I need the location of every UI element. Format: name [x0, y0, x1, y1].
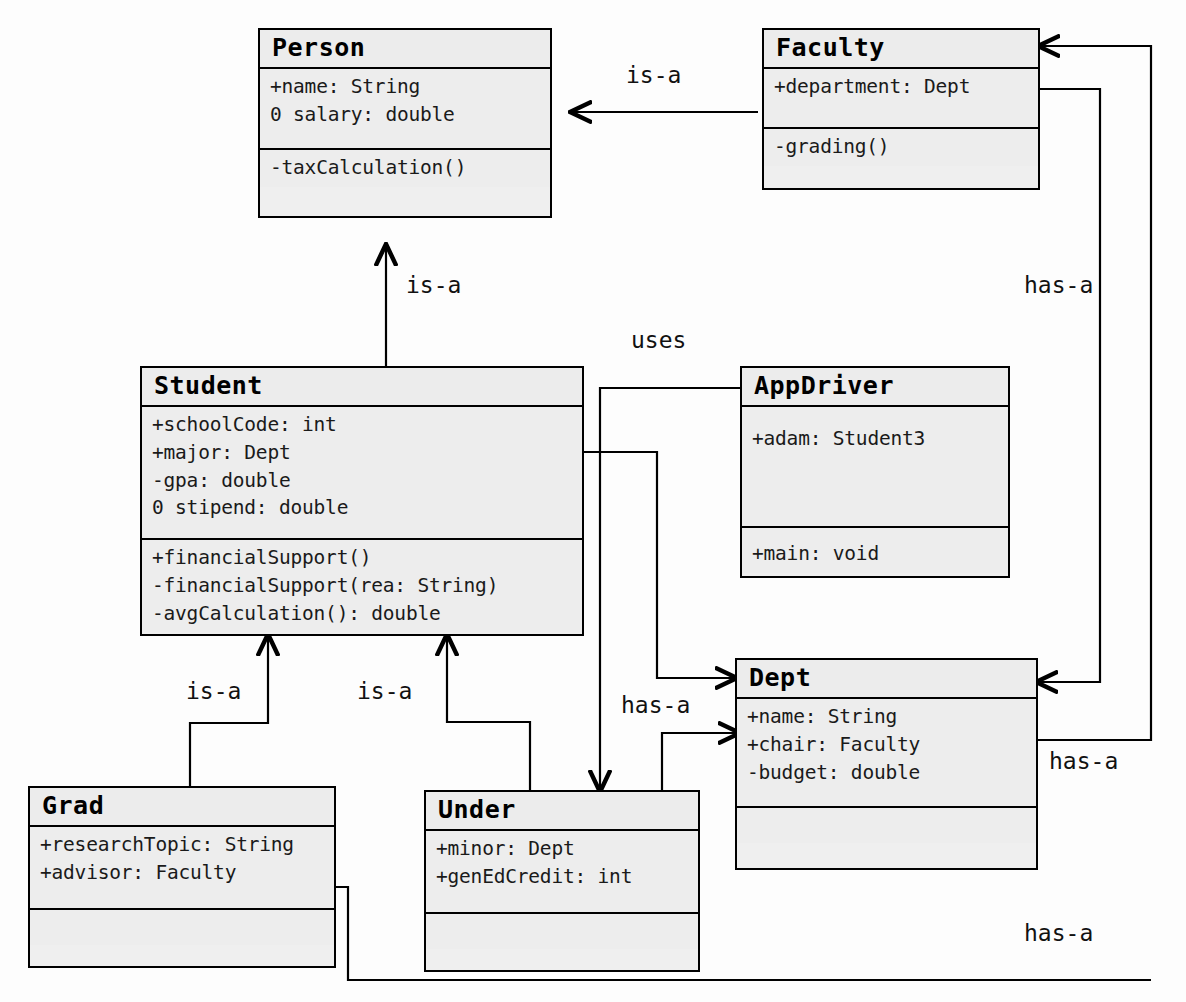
class-operations-grad	[30, 910, 334, 945]
operation-row: -grading()	[774, 133, 1028, 161]
class-name-under: Under	[426, 792, 698, 831]
class-name-faculty: Faculty	[764, 30, 1038, 69]
class-attributes-dept: +name: String +chair: Faculty -budget: d…	[737, 699, 1036, 808]
attribute-row: +department: Dept	[774, 73, 1028, 101]
attribute-row: +genEdCredit: int	[436, 863, 688, 891]
attribute-row: +minor: Dept	[436, 835, 688, 863]
edge-label-appdriver-under: uses	[631, 327, 686, 353]
attribute-row: +researchTopic: String	[40, 831, 324, 859]
operation-row: -avgCalculation(): double	[152, 600, 572, 628]
operation-row: +financialSupport()	[152, 544, 572, 572]
edge-under-student	[447, 636, 530, 812]
edge-grad-student	[190, 636, 268, 806]
edge-label-faculty-person: is-a	[626, 62, 681, 88]
class-box-person[interactable]: Person +name: String 0 salary: double -t…	[258, 28, 552, 218]
class-operations-faculty: -grading()	[764, 129, 1038, 166]
class-attributes-faculty: +department: Dept	[764, 69, 1038, 129]
class-box-student[interactable]: Student +schoolCode: int +major: Dept -g…	[140, 366, 584, 636]
attribute-row: -budget: double	[747, 759, 1026, 787]
attribute-row: +name: String	[747, 703, 1026, 731]
edge-label-faculty-dept: has-a	[1024, 272, 1093, 298]
attribute-row: +major: Dept	[152, 439, 572, 467]
class-operations-person: -taxCalculation()	[260, 150, 550, 187]
attribute-row: +schoolCode: int	[152, 411, 572, 439]
edge-label-grad-faculty: has-a	[1024, 920, 1093, 946]
class-name-grad: Grad	[30, 788, 334, 827]
class-attributes-person: +name: String 0 salary: double	[260, 69, 550, 150]
class-name-dept: Dept	[737, 660, 1036, 699]
attribute-row: +chair: Faculty	[747, 731, 1026, 759]
edge-label-grad-student: is-a	[186, 678, 241, 704]
class-operations-dept	[737, 808, 1036, 843]
class-attributes-student: +schoolCode: int +major: Dept -gpa: doub…	[142, 407, 582, 540]
operation-row: -taxCalculation()	[270, 154, 540, 182]
class-operations-student: +financialSupport() -financialSupport(re…	[142, 540, 582, 632]
class-name-person: Person	[260, 30, 550, 69]
class-operations-under	[426, 914, 698, 949]
operation-row: -financialSupport(rea: String)	[152, 572, 572, 600]
class-box-under[interactable]: Under +minor: Dept +genEdCredit: int	[424, 790, 700, 972]
edge-appdriver-under	[600, 388, 740, 790]
diagram-canvas: Person +name: String 0 salary: double -t…	[0, 0, 1186, 1002]
edge-label-dept-faculty: has-a	[1049, 748, 1118, 774]
operation-row: +main: void	[752, 532, 998, 568]
class-name-appdriver: AppDriver	[742, 368, 1008, 407]
edge-label-student-person: is-a	[406, 272, 461, 298]
attribute-row: +adam: Student3	[752, 411, 998, 453]
class-box-appdriver[interactable]: AppDriver +adam: Student3 +main: void	[740, 366, 1010, 578]
class-box-faculty[interactable]: Faculty +department: Dept -grading()	[762, 28, 1040, 190]
edge-label-under-student: is-a	[357, 678, 412, 704]
attribute-row: 0 salary: double	[270, 101, 540, 129]
class-name-student: Student	[142, 368, 582, 407]
attribute-row: +advisor: Faculty	[40, 859, 324, 887]
class-operations-appdriver: +main: void	[742, 528, 1008, 573]
class-attributes-grad: +researchTopic: String +advisor: Faculty	[30, 827, 334, 910]
class-attributes-under: +minor: Dept +genEdCredit: int	[426, 831, 698, 914]
class-attributes-appdriver: +adam: Student3	[742, 407, 1008, 528]
attribute-row: +name: String	[270, 73, 540, 101]
edge-label-under-dept: has-a	[621, 692, 690, 718]
class-box-dept[interactable]: Dept +name: String +chair: Faculty -budg…	[735, 658, 1038, 870]
attribute-row: -gpa: double	[152, 467, 572, 495]
attribute-row: 0 stipend: double	[152, 494, 572, 522]
class-box-grad[interactable]: Grad +researchTopic: String +advisor: Fa…	[28, 786, 336, 968]
